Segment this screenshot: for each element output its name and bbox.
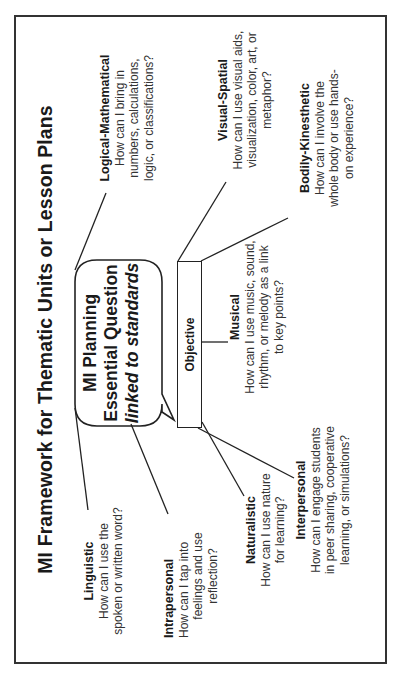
node-line: to key points? xyxy=(272,234,287,400)
node-line: How can I engage students xyxy=(309,410,324,590)
node-line: How can I use the xyxy=(97,502,112,640)
node-line: rhythm, or melody as a link xyxy=(257,234,272,400)
essential-question-bubble: MI Planning Essential Question linked to… xyxy=(80,260,143,426)
node-line: reflection? xyxy=(206,514,221,638)
node-bodily-kinesthetic: Bodily-Kinesthetic How can I involve the… xyxy=(298,56,356,220)
node-line: visualization, color, art, or xyxy=(245,16,260,184)
bubble-line-1: MI Planning xyxy=(80,260,101,426)
node-line: How can I tap into xyxy=(177,514,192,638)
node-naturalistic: Naturalistic How can I use nature for le… xyxy=(244,470,288,590)
node-linguistic: Linguistic How can I use the spoken or w… xyxy=(82,502,126,640)
node-line: in peer sharing, cooperative xyxy=(323,410,338,590)
node-line: logic, or classifications? xyxy=(142,43,157,193)
node-line: How can I involve the xyxy=(313,56,328,220)
node-heading: Bodily-Kinesthetic xyxy=(298,56,313,220)
node-heading: Intrapersonal xyxy=(162,514,177,638)
node-visual-spatial: Visual-Spatial How can I use visual aids… xyxy=(216,16,274,184)
node-intrapersonal: Intrapersonal How can I tap into feeling… xyxy=(162,514,220,638)
node-heading: Musical xyxy=(228,234,243,400)
node-line: How can I use nature xyxy=(259,470,274,590)
node-line: How can I bring in xyxy=(113,43,128,193)
objective-box: Objective xyxy=(177,261,202,428)
node-logical-mathematical: Logical-Mathematical How can I bring in … xyxy=(98,43,156,193)
node-heading: Visual-Spatial xyxy=(216,16,231,184)
node-line: spoken or written word? xyxy=(111,502,126,640)
node-heading: Linguistic xyxy=(82,502,97,640)
node-heading: Logical-Mathematical xyxy=(98,43,113,193)
node-interpersonal: Interpersonal How can I engage students … xyxy=(294,410,352,590)
node-line: on experience? xyxy=(342,56,357,220)
node-line: whole body or use hands- xyxy=(327,56,342,220)
diagram-frame: MI Framework for Thematic Units or Lesso… xyxy=(14,15,387,664)
bubble-line-2: Essential Question xyxy=(101,260,122,426)
node-heading: Naturalistic xyxy=(244,470,259,590)
objective-label: Objective xyxy=(183,317,197,371)
node-line: feelings and use xyxy=(191,514,206,638)
node-heading: Interpersonal xyxy=(294,410,309,590)
node-line: for learning? xyxy=(273,470,288,590)
node-musical: Musical How can I use music, sound, rhyt… xyxy=(228,234,286,400)
node-line: learning, or simulations? xyxy=(338,410,353,590)
node-line: How can I use visual aids, xyxy=(231,16,246,184)
bubble-line-3: linked to standards xyxy=(122,260,143,426)
node-line: numbers, calculations, xyxy=(127,43,142,193)
node-line: How can I use music, sound, xyxy=(243,234,258,400)
node-line: metaphor? xyxy=(260,16,275,184)
page-title: MI Framework for Thematic Units or Lesso… xyxy=(34,17,57,662)
